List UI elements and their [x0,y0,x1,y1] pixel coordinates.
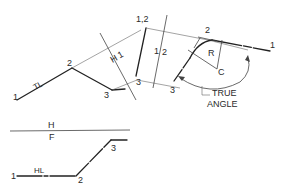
fold-line-hf: H F [10,120,130,142]
label-true-angle-2: ANGLE [207,99,238,109]
label-point-3-aux2: 3 [170,85,175,95]
true-angle-arc [180,58,249,89]
projection-lines-1 [72,30,141,90]
label-true-angle-1: TRUE [212,88,237,98]
label-point-1-top: 1 [13,92,18,102]
aux-view-2: 2 1 3 R C TRUE ANGLE [170,25,275,109]
label-horizontal-line: HL [34,166,45,175]
label-point-3-front: 3 [111,143,116,153]
label-fold-2-of-12: 2 [162,47,167,57]
label-radius: R [208,48,215,58]
arrowhead-right [245,55,250,62]
fold-line-12: 1 2 [153,15,167,88]
label-point-2-top: 2 [67,58,72,68]
front-view: 1 2 3 HL [11,140,127,185]
radius-line-2 [217,40,222,69]
label-fold-h-upper: H [48,120,55,130]
label-point-2-front: 2 [78,175,83,185]
line-2-3-front [76,140,111,176]
top-view: 1 2 3 TL [13,58,125,102]
projection-lines-2 [137,28,248,88]
label-point-1-front: 1 [11,171,16,181]
line-12-3-aux1 [136,28,146,76]
label-center: C [218,67,225,77]
aux-view-1: 1,2 3 [136,14,149,87]
label-point-12-aux1: 1,2 [136,14,149,24]
true-angle-leader [202,86,210,95]
fold-line-hf-line [10,130,130,131]
label-fold-1-of-12: 1 [154,46,159,56]
line-1-2-top [17,68,72,100]
line-2-3-top [72,68,112,90]
label-fold-f-lower: F [49,132,55,142]
descriptive-geometry-diagram: 1 2 3 TL H 1 1,2 3 1 2 [0,0,281,188]
label-point-1-aux2: 1 [270,40,275,50]
label-point-3-aux1: 3 [136,77,141,87]
label-point-2-aux2: 2 [205,25,210,35]
label-point-3-top: 3 [104,90,109,100]
